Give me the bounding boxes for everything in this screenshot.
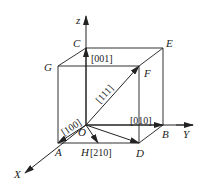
edge-GC (58, 48, 86, 66)
point-label-D: D (135, 147, 144, 159)
edge-DB (139, 125, 163, 143)
point-label-B: B (162, 128, 169, 140)
cubic-cell-diagram: z C G E F O A H D B Y X [001] [010] [210… (0, 0, 208, 184)
direction-210-arrow (86, 125, 98, 143)
direction-OD-arrow (86, 125, 139, 143)
axis-label-X: X (13, 168, 22, 180)
point-label-E: E (165, 37, 173, 49)
point-label-H: H (80, 146, 90, 158)
point-label-A: A (54, 146, 62, 158)
direction-label-001: [001] (91, 53, 113, 64)
point-label-C: C (73, 37, 81, 49)
point-label-F: F (143, 67, 151, 79)
direction-label-111: [111] (93, 82, 115, 105)
point-label-G: G (44, 61, 52, 73)
axis-label-z: z (75, 14, 81, 26)
direction-label-010: [010] (130, 115, 152, 126)
direction-label-210: [210] (90, 147, 112, 158)
edge-FE (139, 48, 163, 66)
axis-label-Y: Y (183, 128, 191, 140)
